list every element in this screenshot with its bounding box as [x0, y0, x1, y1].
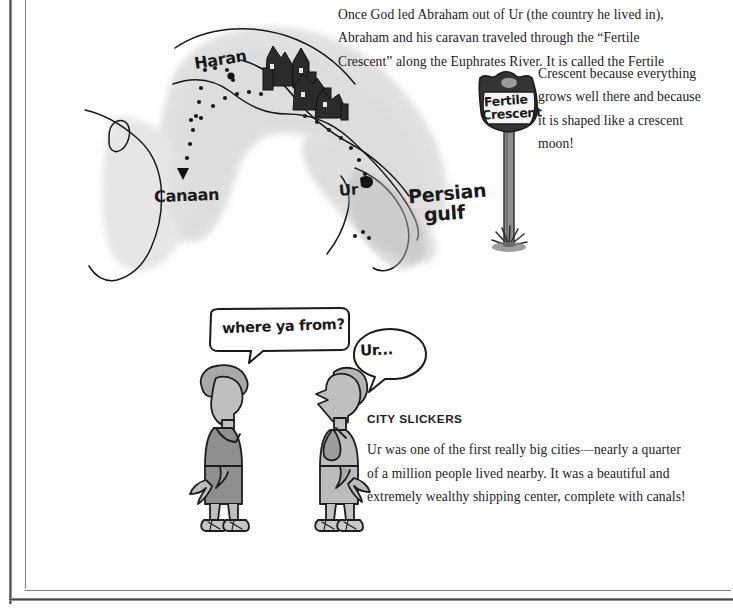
- page-frame-left-border: [9, 0, 12, 604]
- city-slickers-line-2: of a million people lived nearby. It was…: [367, 462, 717, 485]
- intro-wrap-line-2: grows well there and because: [538, 85, 733, 108]
- city-slickers-line-3: extremely wealthy shipping center, compl…: [367, 485, 717, 508]
- intro-line-2: Abraham and his caravan traveled through…: [338, 26, 723, 49]
- map-label-persian-gulf-line2: gulf: [423, 201, 465, 226]
- map-label-ur: Ur: [338, 180, 358, 199]
- city-slickers-line-1: Ur was one of the first really big citie…: [367, 438, 717, 461]
- figure-man-left: [186, 362, 276, 540]
- speech-bubble-left: [205, 306, 355, 366]
- intro-wrap-line-4: moon!: [538, 132, 733, 155]
- city-slickers-body: Ur was one of the first really big citie…: [367, 438, 717, 508]
- speech-bubble-right-text: Ur...: [360, 340, 394, 359]
- city-slickers-heading: CITY SLICKERS: [367, 408, 717, 431]
- page-frame-bottom-border: [9, 598, 733, 601]
- page-frame-inner-left-rule: [25, 0, 26, 588]
- sign-text-line2: Crescent: [482, 104, 542, 122]
- page-frame-inner-bottom-rule: [25, 590, 731, 591]
- map-label-canaan: Canaan: [154, 185, 220, 206]
- intro-line-1: Once God led Abraham out of Ur (the coun…: [338, 3, 723, 26]
- city-slickers-sidebar: CITY SLICKERS Ur was one of the first re…: [367, 408, 717, 509]
- intro-wrap-line-1: Crescent because everything: [538, 62, 733, 85]
- intro-paragraph-wrap: Crescent because everything grows well t…: [538, 62, 733, 156]
- intro-wrap-line-3: it is shaped like a crescent: [538, 109, 733, 132]
